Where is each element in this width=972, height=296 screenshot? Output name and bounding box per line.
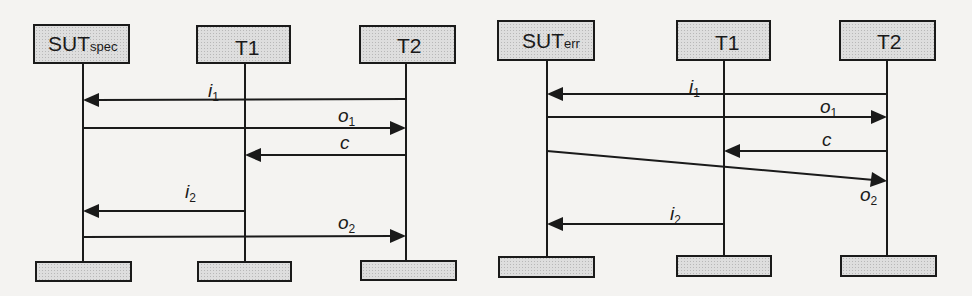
- message-i2-arrow: [83, 204, 245, 218]
- message-subscript: 1: [349, 115, 356, 129]
- message-label-i2: i2: [185, 182, 196, 204]
- diagram-spec: [34, 25, 456, 281]
- message-name: o: [860, 184, 871, 205]
- message-subscript: 1: [831, 106, 838, 120]
- message-subscript: 1: [212, 90, 219, 104]
- participant-name: T1: [715, 31, 740, 54]
- end-box-sut-err: [499, 257, 594, 277]
- participant-label-t2: T2: [397, 35, 422, 56]
- participant-label-t1: T1: [715, 32, 740, 53]
- participant-label-t2: T2: [877, 31, 902, 52]
- participant-name: T1: [235, 36, 260, 59]
- end-box-t1: [198, 262, 291, 281]
- participant-subscript: spec: [90, 39, 117, 54]
- message-name: o: [820, 96, 831, 117]
- participant-name: SUT: [522, 29, 564, 52]
- diagram-err: [498, 21, 936, 277]
- participant-name: SUT: [48, 32, 90, 55]
- message-name: o: [338, 212, 349, 233]
- participant-label-sut-spec: SUTspec: [48, 33, 117, 54]
- participant-name: T2: [397, 34, 422, 57]
- participant-label-sut-err: SUTerr: [522, 30, 580, 51]
- end-box-t2: [841, 256, 936, 276]
- message-label-i1: i1: [689, 77, 700, 99]
- message-label-o1: o1: [820, 97, 837, 119]
- participant-label-t1: T1: [235, 37, 260, 58]
- end-box-t1: [677, 256, 771, 276]
- message-subscript: 2: [871, 194, 878, 208]
- message-subscript: 2: [349, 222, 356, 236]
- message-c-arrow: [245, 148, 406, 162]
- message-label-o2: o2: [338, 213, 355, 235]
- participant-name: T2: [877, 30, 902, 53]
- message-label-c: c: [340, 133, 350, 152]
- message-label-o2: o2: [860, 185, 877, 207]
- end-box-t2: [361, 261, 456, 280]
- message-label-i2: i2: [670, 204, 681, 226]
- message-subscript: 1: [693, 86, 700, 100]
- message-name: o: [338, 105, 349, 126]
- message-label-i1: i1: [208, 81, 219, 103]
- message-name: c: [822, 129, 832, 150]
- message-label-o1: o1: [338, 106, 355, 128]
- message-o2-arrow-slanted: [547, 151, 887, 187]
- message-c-arrow: [724, 144, 887, 158]
- message-subscript: 2: [189, 191, 196, 205]
- participant-subscript: err: [564, 36, 580, 51]
- message-name: c: [340, 132, 350, 153]
- end-box-sut-spec: [36, 262, 131, 281]
- message-i2-arrow: [547, 217, 724, 231]
- message-subscript: 2: [674, 213, 681, 227]
- message-label-c: c: [822, 130, 832, 149]
